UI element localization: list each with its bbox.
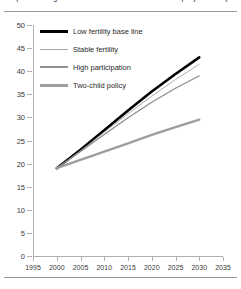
y-tick xyxy=(27,25,32,26)
y-tick xyxy=(27,233,32,234)
legend-label: Two-child policy xyxy=(73,81,126,90)
x-tick-label: 2015 xyxy=(120,264,136,271)
series-line xyxy=(57,120,200,169)
y-tick-label: 15 xyxy=(17,182,25,191)
y-tick-label: 50 xyxy=(17,21,25,30)
y-tick-label: 25 xyxy=(17,136,25,145)
y-tick xyxy=(27,210,32,211)
chart-title-clipped: Population aged 65 and over under altern… xyxy=(6,0,235,10)
y-tick xyxy=(27,164,32,165)
legend-item: High participation xyxy=(40,58,143,76)
legend-swatch xyxy=(40,30,68,33)
y-tick xyxy=(27,94,32,95)
x-tick-label: 2005 xyxy=(73,264,89,271)
legend-item: Two-child policy xyxy=(40,76,143,94)
x-tick xyxy=(176,257,177,261)
x-tick-label: 2000 xyxy=(49,264,65,271)
x-tick-label: 2020 xyxy=(144,264,160,271)
y-tick xyxy=(27,117,32,118)
y-tick xyxy=(27,71,32,72)
x-tick-label: 2035 xyxy=(215,264,231,271)
y-tick-label: 10 xyxy=(17,205,25,214)
x-tick xyxy=(104,257,105,261)
y-tick-label: 20 xyxy=(17,159,25,168)
chart-title: Population aged 65 and over under altern… xyxy=(6,0,235,2)
x-tick xyxy=(199,257,200,261)
y-tick-label: 45 xyxy=(17,44,25,53)
x-tick xyxy=(128,257,129,261)
y-tick-label: 40 xyxy=(17,67,25,76)
legend-swatch xyxy=(40,66,68,68)
x-tick xyxy=(152,257,153,261)
legend-item: Stable fertility xyxy=(40,40,143,58)
y-tick xyxy=(27,187,32,188)
y-tick xyxy=(27,48,32,49)
y-tick-label: 5 xyxy=(21,228,25,237)
x-tick xyxy=(57,257,58,261)
x-axis-ticks: 199520002005201020152020202520302035 xyxy=(33,257,223,277)
y-tick-label: 35 xyxy=(17,90,25,99)
legend-swatch xyxy=(40,84,68,87)
chart-figure: Population aged 65 and over under altern… xyxy=(0,0,241,289)
x-tick-label: 2025 xyxy=(168,264,184,271)
y-tick-label: 30 xyxy=(17,113,25,122)
legend-label: Stable fertility xyxy=(73,45,118,54)
y-tick xyxy=(27,141,32,142)
x-tick xyxy=(81,257,82,261)
x-tick-label: 2030 xyxy=(191,264,207,271)
x-tick-label: 2010 xyxy=(96,264,112,271)
legend-label: High participation xyxy=(73,63,131,72)
bottom-divider xyxy=(4,277,237,278)
chart-legend: Low fertility base lineStable fertilityH… xyxy=(40,22,143,94)
top-divider xyxy=(4,11,237,12)
legend-item: Low fertility base line xyxy=(40,22,143,40)
x-tick-label: 1995 xyxy=(25,264,41,271)
legend-label: Low fertility base line xyxy=(73,27,143,36)
x-tick xyxy=(33,257,34,261)
y-tick xyxy=(27,256,32,257)
y-tick-label: 0 xyxy=(21,252,25,261)
legend-swatch xyxy=(40,49,68,50)
x-tick xyxy=(223,257,224,261)
